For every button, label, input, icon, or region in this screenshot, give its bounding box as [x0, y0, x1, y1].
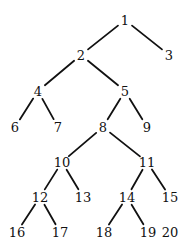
tree-node-6: 6 [11, 120, 19, 135]
tree-node-1: 1 [121, 13, 129, 28]
tree-node-16: 16 [9, 225, 26, 240]
tree-node-12: 12 [32, 190, 49, 205]
tree-node-14: 14 [119, 190, 136, 205]
tree-edge-2-4 [45, 61, 74, 85]
tree-node-2: 2 [77, 48, 85, 63]
tree-node-19: 19 [140, 225, 157, 240]
tree-edge-1-2 [88, 26, 118, 50]
tree-edge-14-18 [109, 205, 122, 225]
tree-edge-8-10 [69, 133, 96, 156]
tree-node-4: 4 [34, 84, 42, 99]
tree-edge-11-15 [152, 170, 165, 190]
tree-node-15: 15 [162, 190, 179, 205]
tree-edge-2-5 [88, 61, 118, 86]
tree-node-20: 20 [162, 225, 179, 240]
tree-node-17: 17 [52, 225, 69, 240]
tree-edge-10-12 [45, 170, 57, 190]
tree-node-9: 9 [143, 120, 151, 135]
tree-edge-12-16 [22, 205, 35, 225]
tree-edge-4-6 [20, 99, 33, 120]
tree-edge-14-19 [132, 205, 144, 225]
tree-edge-10-13 [67, 170, 79, 190]
tree-node-5: 5 [121, 84, 129, 99]
tree-node-18: 18 [96, 225, 113, 240]
tree-edge-8-11 [110, 133, 140, 157]
tree-node-8: 8 [99, 120, 107, 135]
tree-diagram: 1234567891011121314151617181920 [0, 0, 187, 249]
tree-node-3: 3 [165, 48, 173, 63]
tree-node-10: 10 [54, 155, 71, 170]
tree-edge-5-8 [108, 99, 121, 120]
tree-node-7: 7 [54, 120, 62, 135]
tree-edge-1-3 [132, 26, 162, 50]
tree-edge-11-14 [131, 170, 142, 189]
tree-node-13: 13 [75, 190, 92, 205]
tree-edge-4-7 [42, 99, 53, 119]
tree-edge-12-17 [44, 205, 55, 224]
tree-edge-5-9 [130, 99, 143, 120]
tree-node-11: 11 [139, 155, 156, 170]
